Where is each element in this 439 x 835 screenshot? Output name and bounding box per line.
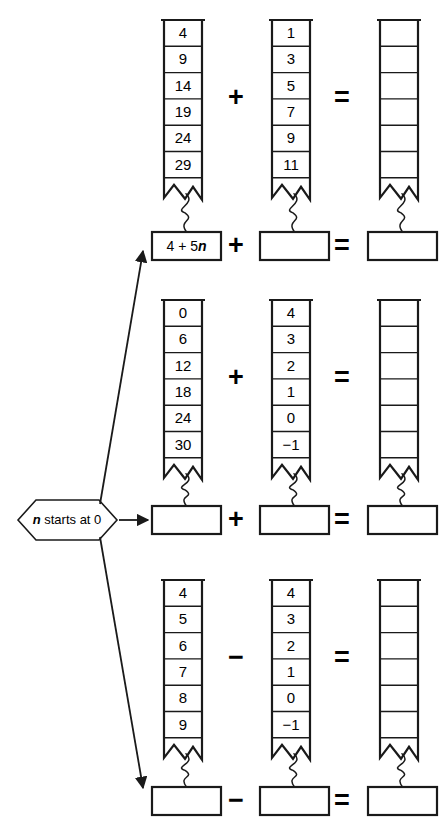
- start-node-label: n starts at 0: [33, 512, 102, 527]
- formula-box[interactable]: [260, 506, 329, 534]
- cell-value: 0: [179, 304, 187, 321]
- cell-value: 14: [175, 77, 192, 94]
- cell-value: 7: [287, 103, 295, 120]
- cell-value: 1: [287, 383, 295, 400]
- value-column[interactable]: [377, 580, 421, 760]
- column-groups: 49141924291357911061218243043210−1456789…: [161, 20, 421, 787]
- value-column[interactable]: 4914192429: [161, 20, 205, 200]
- cell-value: 9: [179, 716, 187, 733]
- cell-value: 7: [179, 663, 187, 680]
- cell-value: −1: [282, 436, 299, 453]
- formula-box[interactable]: [368, 787, 437, 815]
- cell-value: 2: [287, 637, 295, 654]
- cell-value: 29: [175, 156, 192, 173]
- value-column[interactable]: 1357911: [269, 20, 313, 200]
- flow-arrow-down: [100, 537, 143, 788]
- cell-value: 24: [175, 409, 192, 426]
- formula-equals-symbol: =: [334, 230, 350, 260]
- cell-value: 9: [179, 50, 187, 67]
- formula-box[interactable]: [260, 787, 329, 815]
- group-1: 49141924291357911: [161, 20, 421, 232]
- cell-value: 3: [287, 330, 295, 347]
- formula-row: +=: [152, 504, 437, 534]
- formula-operator-symbol: −: [228, 785, 244, 815]
- cell-value: 6: [179, 330, 187, 347]
- cell-value: 1: [287, 24, 295, 41]
- operator-symbol: +: [228, 362, 244, 392]
- group-3: 45678943210−1: [161, 580, 421, 787]
- start-node[interactable]: n starts at 0: [18, 500, 117, 540]
- formula-equals-symbol: =: [334, 504, 350, 534]
- cell-value: 0: [287, 689, 295, 706]
- formula-operator-symbol: +: [228, 504, 244, 534]
- cell-value: 3: [287, 50, 295, 67]
- cell-value: 4: [179, 24, 187, 41]
- value-column[interactable]: 456789: [161, 580, 205, 760]
- diagram-svg: 49141924291357911061218243043210−1456789…: [0, 0, 439, 835]
- formula-operator-symbol: +: [228, 230, 244, 260]
- formula-box[interactable]: [152, 506, 221, 534]
- equals-symbol: =: [334, 362, 350, 392]
- value-column[interactable]: [377, 20, 421, 200]
- cell-value: 1: [287, 663, 295, 680]
- value-column[interactable]: [377, 300, 421, 480]
- equals-symbol: =: [334, 642, 350, 672]
- cell-value: 4: [287, 304, 295, 321]
- cell-value: 2: [287, 357, 295, 374]
- cell-value: 4: [287, 584, 295, 601]
- formula-row: −=: [152, 785, 437, 815]
- operator-symbol: +: [228, 82, 244, 112]
- equals-symbol: =: [334, 82, 350, 112]
- formula-box[interactable]: [260, 232, 329, 260]
- value-column[interactable]: 0612182430: [161, 300, 205, 480]
- cell-value: 6: [179, 637, 187, 654]
- cell-value: 3: [287, 610, 295, 627]
- value-column[interactable]: 43210−1: [269, 300, 313, 480]
- cell-value: 5: [287, 77, 295, 94]
- cell-value: 0: [287, 409, 295, 426]
- flow-arrow-up: [100, 251, 143, 504]
- cell-value: −1: [282, 716, 299, 733]
- operator-symbol: −: [228, 642, 244, 672]
- cell-value: 18: [175, 383, 192, 400]
- cell-value: 4: [179, 584, 187, 601]
- diagram-canvas: 49141924291357911061218243043210−1456789…: [0, 0, 439, 835]
- cell-value: 30: [175, 436, 192, 453]
- cell-value: 9: [287, 129, 295, 146]
- formula-equals-symbol: =: [334, 785, 350, 815]
- formula-box[interactable]: [368, 506, 437, 534]
- cell-value: 8: [179, 689, 187, 706]
- value-column[interactable]: 43210−1: [269, 580, 313, 760]
- cell-value: 19: [175, 103, 192, 120]
- group-2: 061218243043210−1: [161, 300, 421, 506]
- cell-value: 5: [179, 610, 187, 627]
- formula-box-label: 4 + 5n: [166, 238, 206, 254]
- cell-value: 24: [175, 129, 192, 146]
- cell-value: 11: [283, 156, 299, 173]
- formula-box[interactable]: [152, 787, 221, 815]
- cell-value: 12: [175, 357, 192, 374]
- formula-row: 4 + 5n+=: [152, 230, 437, 260]
- formula-box[interactable]: [368, 232, 437, 260]
